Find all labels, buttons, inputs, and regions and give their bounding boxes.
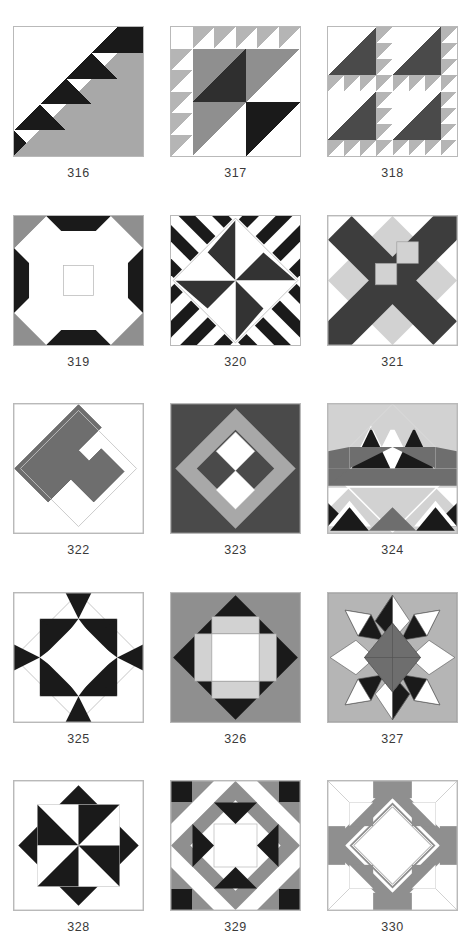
block-cell-316: 316 bbox=[0, 0, 157, 189]
block-cell-320: 320 bbox=[157, 189, 314, 378]
block-image-316 bbox=[13, 26, 144, 157]
block-label-326: 326 bbox=[224, 733, 247, 746]
block-image-321 bbox=[327, 215, 458, 346]
block-label-329: 329 bbox=[224, 921, 247, 934]
block-cell-327: 327 bbox=[314, 566, 471, 755]
block-label-330: 330 bbox=[381, 921, 404, 934]
block-label-318: 318 bbox=[381, 167, 404, 180]
block-cell-317: 317 bbox=[157, 0, 314, 189]
block-cell-329: 329 bbox=[157, 754, 314, 943]
block-label-321: 321 bbox=[381, 356, 404, 369]
block-image-323 bbox=[170, 403, 301, 534]
block-label-327: 327 bbox=[381, 733, 404, 746]
block-grid: 316 bbox=[0, 0, 471, 943]
block-label-320: 320 bbox=[224, 356, 247, 369]
block-label-324: 324 bbox=[381, 544, 404, 557]
block-cell-328: 328 bbox=[0, 754, 157, 943]
block-image-318 bbox=[327, 26, 458, 157]
block-cell-319: 319 bbox=[0, 189, 157, 378]
block-image-320 bbox=[170, 215, 301, 346]
block-cell-330: 330 bbox=[314, 754, 471, 943]
block-image-328 bbox=[13, 780, 144, 911]
block-image-317 bbox=[170, 26, 301, 157]
block-image-324 bbox=[327, 403, 458, 534]
block-image-322 bbox=[13, 403, 144, 534]
block-cell-318: 318 bbox=[314, 0, 471, 189]
block-label-322: 322 bbox=[67, 544, 90, 557]
block-cell-326: 326 bbox=[157, 566, 314, 755]
block-label-323: 323 bbox=[224, 544, 247, 557]
block-cell-323: 323 bbox=[157, 377, 314, 566]
block-label-328: 328 bbox=[67, 921, 90, 934]
block-image-330 bbox=[327, 780, 458, 911]
block-image-327 bbox=[327, 592, 458, 723]
block-image-319 bbox=[13, 215, 144, 346]
block-cell-324: 324 bbox=[314, 377, 471, 566]
block-cell-325: 325 bbox=[0, 566, 157, 755]
block-label-325: 325 bbox=[67, 733, 90, 746]
block-label-319: 319 bbox=[67, 356, 90, 369]
block-cell-322: 322 bbox=[0, 377, 157, 566]
block-cell-321: 321 bbox=[314, 189, 471, 378]
block-label-317: 317 bbox=[224, 167, 247, 180]
quilt-block-catalog-page: 316 bbox=[0, 0, 471, 943]
block-image-329 bbox=[170, 780, 301, 911]
block-label-316: 316 bbox=[67, 167, 90, 180]
block-image-326 bbox=[170, 592, 301, 723]
block-image-325 bbox=[13, 592, 144, 723]
